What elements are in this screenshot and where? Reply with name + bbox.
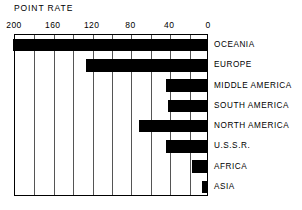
bar-row — [15, 79, 207, 92]
chart-title: POINT RATE — [14, 3, 73, 13]
bar — [86, 59, 207, 72]
bar-row — [15, 100, 207, 113]
bar — [168, 100, 207, 113]
category-label: EUROPE — [214, 60, 252, 69]
bar — [13, 39, 207, 52]
bar-row — [15, 140, 207, 153]
category-label: AFRICA — [214, 161, 247, 170]
x-axis-tick-labels: 20016012080400 — [14, 20, 208, 32]
x-tick-label: 200 — [6, 20, 21, 30]
x-tick-label: 40 — [164, 20, 174, 30]
x-tick-label: 0 — [205, 20, 210, 30]
category-label: NORTH AMERICA — [214, 121, 289, 130]
x-tick-label: 120 — [84, 20, 99, 30]
category-label: MIDDLE AMERICA — [214, 80, 292, 89]
category-labels: OCEANIAEUROPEMIDDLE AMERICASOUTH AMERICA… — [214, 34, 302, 196]
bar — [139, 120, 207, 133]
bar-row — [15, 59, 207, 72]
bar — [202, 181, 207, 194]
bar-row — [15, 120, 207, 133]
bar — [166, 140, 207, 153]
bar-rows — [15, 35, 207, 195]
x-tick-label: 80 — [125, 20, 135, 30]
bar — [192, 160, 207, 173]
category-label: OCEANIA — [214, 40, 255, 49]
bar — [166, 79, 207, 92]
bar-chart: POINT RATE 20016012080400 OCEANIAEUROPEM… — [0, 0, 302, 210]
plot-area — [14, 34, 208, 196]
bar-row — [15, 181, 207, 194]
bar-row — [15, 160, 207, 173]
bar-row — [15, 39, 207, 52]
x-tick-label: 160 — [45, 20, 60, 30]
category-label: U.S.S.R. — [214, 141, 250, 150]
category-label: SOUTH AMERICA — [214, 100, 289, 109]
category-label: ASIA — [214, 181, 235, 190]
